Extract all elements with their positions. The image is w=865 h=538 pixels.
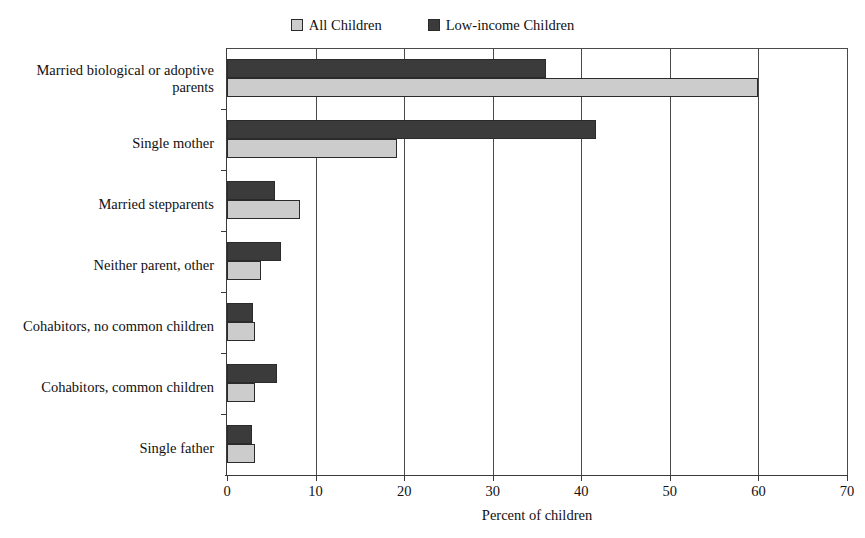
bar-group-cohabitors-no-common-children xyxy=(227,292,847,353)
chart-legend: All Children Low-income Children xyxy=(0,18,865,33)
x-axis-title: Percent of children xyxy=(227,508,847,523)
bar-low-income-cohabitors-common-children xyxy=(227,364,277,383)
bar-low-income-single-father xyxy=(227,425,252,444)
bar-low-income-married-biological-or-adoptive-parents xyxy=(227,59,546,78)
bar-all-children-married-biological-or-adoptive-parents xyxy=(227,78,758,97)
category-label-neither-parent-other: Neither parent, other xyxy=(0,257,214,274)
gridline-70 xyxy=(847,48,848,475)
bar-group-single-mother xyxy=(227,109,847,170)
x-tick-label-0: 0 xyxy=(207,484,247,499)
bar-all-children-married-stepparents xyxy=(227,200,300,219)
category-label-line: Cohabitors, no common children xyxy=(0,318,214,335)
category-label-line: Married stepparents xyxy=(0,196,214,213)
category-axis-labels: Married biological or adoptive parents S… xyxy=(0,48,214,475)
legend-swatch-all-children xyxy=(291,19,303,31)
bar-group-married-biological-or-adoptive-parents xyxy=(227,48,847,109)
x-tick-label-70: 70 xyxy=(827,484,865,499)
bar-low-income-neither-parent-other xyxy=(227,242,281,261)
bar-low-income-cohabitors-no-common-children xyxy=(227,303,253,322)
x-tick-label-50: 50 xyxy=(650,484,690,499)
bar-all-children-neither-parent-other xyxy=(227,261,261,280)
bar-all-children-single-mother xyxy=(227,139,397,158)
x-tick-40 xyxy=(581,475,582,481)
legend-swatch-low-income-children xyxy=(428,19,440,31)
x-tick-50 xyxy=(670,475,671,481)
x-tick-label-60: 60 xyxy=(738,484,778,499)
category-label-line: Single mother xyxy=(0,135,214,152)
x-tick-label-40: 40 xyxy=(561,484,601,499)
bar-low-income-single-mother xyxy=(227,120,596,139)
category-label-single-mother: Single mother xyxy=(0,135,214,152)
x-tick-0 xyxy=(227,475,228,481)
x-tick-label-30: 30 xyxy=(473,484,513,499)
legend-item-all-children: All Children xyxy=(291,18,382,33)
bar-group-cohabitors-common-children xyxy=(227,353,847,414)
legend-item-low-income-children: Low-income Children xyxy=(428,18,574,33)
legend-label-low-income-children: Low-income Children xyxy=(446,18,574,33)
category-label-line: Single father xyxy=(0,440,214,457)
category-label-married-biological-or-adoptive-parents: Married biological or adoptive parents xyxy=(0,62,214,96)
plot-area: 010203040506070 Percent of children xyxy=(226,48,847,475)
x-tick-label-10: 10 xyxy=(296,484,336,499)
bar-group-single-father xyxy=(227,414,847,475)
x-tick-20 xyxy=(404,475,405,481)
bar-all-children-cohabitors-no-common-children xyxy=(227,322,255,341)
x-tick-10 xyxy=(316,475,317,481)
bar-all-children-cohabitors-common-children xyxy=(227,383,255,402)
category-label-married-stepparents: Married stepparents xyxy=(0,196,214,213)
legend-label-all-children: All Children xyxy=(309,18,382,33)
x-tick-30 xyxy=(493,475,494,481)
plot-frame-bottom xyxy=(225,475,847,476)
bar-group-neither-parent-other xyxy=(227,231,847,292)
category-label-line: parents xyxy=(0,79,214,96)
x-tick-label-20: 20 xyxy=(384,484,424,499)
x-tick-70 xyxy=(847,475,848,481)
category-label-cohabitors-no-common-children: Cohabitors, no common children xyxy=(0,318,214,335)
x-tick-60 xyxy=(758,475,759,481)
chart-figure: All Children Low-income Children Married… xyxy=(0,0,865,538)
bar-low-income-married-stepparents xyxy=(227,181,275,200)
bar-group-married-stepparents xyxy=(227,170,847,231)
category-label-line: Neither parent, other xyxy=(0,257,214,274)
category-label-cohabitors-common-children: Cohabitors, common children xyxy=(0,379,214,396)
category-label-line: Married biological or adoptive xyxy=(0,62,214,79)
category-label-line: Cohabitors, common children xyxy=(0,379,214,396)
category-label-single-father: Single father xyxy=(0,440,214,457)
bar-all-children-single-father xyxy=(227,444,255,463)
